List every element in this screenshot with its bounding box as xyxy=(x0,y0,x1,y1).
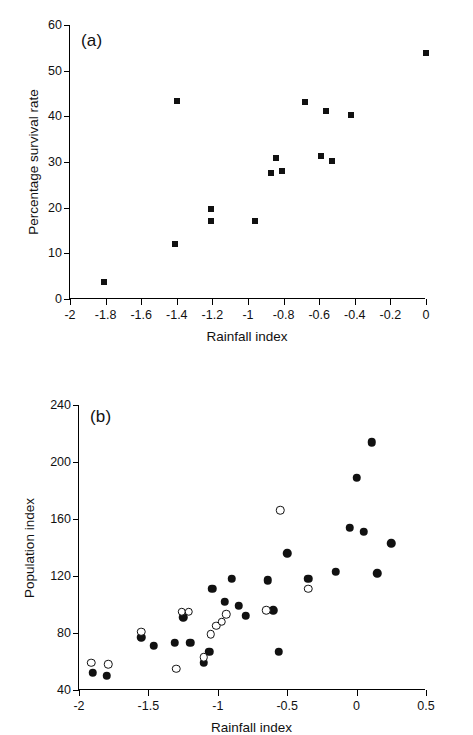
x-tick-mark xyxy=(357,690,358,696)
x-tick-label: -0.2 xyxy=(380,308,402,322)
data-point xyxy=(373,569,382,578)
x-axis-title-a: Rainfall index xyxy=(206,329,287,344)
x-tick-mark xyxy=(426,690,427,696)
data-point xyxy=(273,155,279,161)
data-point xyxy=(304,575,313,584)
y-tick-label: 40 xyxy=(57,683,71,697)
y-tick-label: 0 xyxy=(55,292,62,306)
y-tick-label: 60 xyxy=(48,18,62,32)
chart-panel-a: 0102030405060-2-1.8-1.6-1.4-1.2-1-0.8-0.… xyxy=(0,0,473,360)
y-tick-label: 10 xyxy=(48,246,62,260)
x-tick-label: -1.8 xyxy=(95,308,117,322)
data-point xyxy=(220,597,229,606)
x-tick-label: -1 xyxy=(212,699,223,713)
data-point xyxy=(227,575,236,584)
x-tick-mark xyxy=(390,299,391,305)
x-axis-title-b: Rainfall index xyxy=(211,720,292,735)
data-point xyxy=(279,168,285,174)
panel-label-a: (a) xyxy=(81,31,102,51)
x-tick-mark xyxy=(319,299,320,305)
data-point xyxy=(87,659,96,668)
data-point xyxy=(329,158,335,164)
data-point xyxy=(208,218,214,224)
data-point xyxy=(222,610,231,619)
data-point xyxy=(283,549,292,558)
data-point xyxy=(345,523,354,532)
data-point xyxy=(264,576,273,585)
data-point xyxy=(104,660,113,669)
x-tick-label: 0 xyxy=(423,308,430,322)
data-point xyxy=(184,607,193,616)
data-point xyxy=(150,642,159,651)
y-tick-mark xyxy=(73,519,79,520)
data-point xyxy=(252,218,258,224)
data-point xyxy=(348,112,354,118)
data-point xyxy=(207,630,216,639)
chart-panel-b: 4080120160200240-2-1.5-1-0.500.5 (b) Rai… xyxy=(0,360,473,726)
x-tick-mark xyxy=(177,299,178,305)
data-point xyxy=(332,567,341,576)
panel-label-b: (b) xyxy=(90,407,111,427)
x-tick-mark xyxy=(212,299,213,305)
y-tick-label: 50 xyxy=(48,64,62,78)
y-tick-mark xyxy=(73,633,79,634)
data-point xyxy=(241,612,250,621)
x-tick-label: -1 xyxy=(242,308,253,322)
y-tick-label: 20 xyxy=(48,201,62,215)
data-point xyxy=(103,672,112,681)
x-tick-mark xyxy=(148,690,149,696)
x-tick-label: -1.4 xyxy=(166,308,188,322)
data-point xyxy=(137,627,146,636)
data-point xyxy=(275,647,284,656)
data-point xyxy=(89,669,98,678)
x-tick-mark xyxy=(287,690,288,696)
data-point xyxy=(302,99,308,105)
x-tick-mark xyxy=(426,299,427,305)
x-tick-label: -0.5 xyxy=(276,699,298,713)
y-tick-label: 80 xyxy=(57,626,71,640)
x-tick-label: -0.4 xyxy=(344,308,366,322)
y-tick-mark xyxy=(64,71,70,72)
data-point xyxy=(234,602,243,611)
x-tick-mark xyxy=(141,299,142,305)
y-tick-label: 120 xyxy=(50,569,71,583)
y-tick-mark xyxy=(64,25,70,26)
x-tick-label: -2 xyxy=(73,699,84,713)
y-tick-mark xyxy=(64,162,70,163)
y-tick-mark xyxy=(73,405,79,406)
y-tick-label: 200 xyxy=(50,455,71,469)
data-point xyxy=(318,153,324,159)
x-tick-label: -1.2 xyxy=(202,308,224,322)
data-point xyxy=(171,639,180,648)
data-point xyxy=(262,606,271,615)
x-tick-label: -1.5 xyxy=(138,699,160,713)
data-point xyxy=(208,585,217,594)
data-point xyxy=(101,279,107,285)
y-tick-mark xyxy=(73,576,79,577)
y-tick-label: 40 xyxy=(48,109,62,123)
y-tick-mark xyxy=(64,208,70,209)
x-tick-label: -2 xyxy=(64,308,75,322)
data-point xyxy=(172,664,181,673)
x-tick-mark xyxy=(70,299,71,305)
y-tick-mark xyxy=(73,462,79,463)
data-point xyxy=(174,98,180,104)
data-point xyxy=(172,241,178,247)
data-point xyxy=(387,539,396,548)
data-point xyxy=(200,653,209,662)
x-tick-mark xyxy=(79,690,80,696)
data-point xyxy=(352,473,361,482)
x-tick-mark xyxy=(248,299,249,305)
y-tick-label: 160 xyxy=(50,512,71,526)
data-point xyxy=(276,506,285,515)
data-point xyxy=(186,639,195,648)
plot-area-a: 0102030405060-2-1.8-1.6-1.4-1.2-1-0.8-0.… xyxy=(69,25,425,299)
x-tick-mark xyxy=(218,690,219,696)
y-axis-title-a: Percentage survival rate xyxy=(26,89,41,235)
x-tick-mark xyxy=(106,299,107,305)
data-point xyxy=(323,108,329,114)
data-point xyxy=(268,170,274,176)
x-tick-mark xyxy=(284,299,285,305)
y-axis-title-b: Population index xyxy=(22,498,37,598)
